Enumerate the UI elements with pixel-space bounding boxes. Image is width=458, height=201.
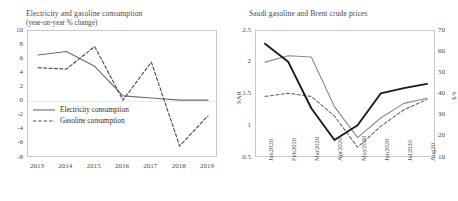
- x-tick-label: 2018: [169, 162, 189, 170]
- figure-root: Electricity and gasoline consumption (ye…: [0, 0, 458, 201]
- axis-label-sar: SAR: [235, 91, 242, 104]
- y-tick-label: 4: [3, 68, 23, 76]
- y-tick-label-right: 60: [438, 47, 458, 55]
- y-tick-label-right: 10: [438, 153, 458, 161]
- x-tick-label: 2016: [112, 162, 132, 170]
- x-tick-label: 2013: [27, 162, 47, 170]
- y-tick-label-right: 70: [438, 26, 458, 34]
- x-tick-label: May2020: [360, 136, 367, 161]
- x-tick-label: Jun2020: [383, 139, 390, 161]
- legend-item[interactable]: Gasoline consumption: [33, 115, 129, 126]
- y-tick-label-left: 2: [231, 57, 251, 65]
- y-tick-label-right: 50: [438, 68, 458, 76]
- series-line: [265, 56, 427, 138]
- y-tick-label-left: 1: [231, 121, 251, 129]
- y-tick-label: -2: [3, 110, 23, 118]
- y-tick-label: 6: [3, 54, 23, 62]
- y-tick-label-right: 30: [438, 110, 458, 118]
- legend-line-swatch: [33, 117, 55, 125]
- x-tick-label: 2019: [197, 162, 217, 170]
- series-layer-left: [28, 31, 218, 158]
- x-tick-label: 2015: [84, 162, 104, 170]
- chart-panel-left: Electricity and gasoline consumption (ye…: [0, 0, 229, 201]
- chart-title-left: Electricity and gasoline consumption: [26, 9, 142, 18]
- axis-label-usd-per-barrel: $/b: [450, 92, 457, 100]
- series-line: [38, 51, 208, 100]
- chart-panel-right: Saudi gasoline and Brent crude prices 2.…: [229, 0, 458, 201]
- y-tick-label-right: 20: [438, 131, 458, 139]
- y-tick-label: -8: [3, 153, 23, 161]
- plot-area-right: [255, 30, 435, 157]
- x-tick-label: 2017: [140, 162, 160, 170]
- legend-item-label: Gasoline consumption: [60, 117, 124, 125]
- y-tick-label: 2: [3, 82, 23, 90]
- y-tick-label: -4: [3, 124, 23, 132]
- y-tick-label: 0: [3, 96, 23, 104]
- x-tick-label: Feb2020: [290, 138, 297, 161]
- x-tick-label: Apr2020: [336, 138, 343, 161]
- x-tick-label: Aug20: [429, 143, 436, 161]
- y-tick-label: -6: [3, 138, 23, 146]
- chart-subtitle-left: (year-on-year % change): [26, 19, 97, 27]
- series-layer-right: [256, 31, 436, 158]
- y-tick-label: 10: [3, 26, 23, 34]
- x-tick-label: Jul2020: [406, 140, 413, 161]
- chart-title-right: Saudi gasoline and Brent crude prices: [249, 9, 368, 18]
- x-tick-label: 2014: [55, 162, 75, 170]
- series-line: [265, 44, 427, 140]
- y-tick-label-left: 2.5: [231, 26, 251, 34]
- legend-line-swatch: [33, 106, 55, 114]
- y-tick-label-left: 0.5: [231, 153, 251, 161]
- legend-item-label: Electricity consumption: [60, 106, 129, 114]
- legend-left: Electricity consumptionGasoline consumpt…: [33, 104, 129, 126]
- y-tick-label: 8: [3, 40, 23, 48]
- x-tick-label: Jan2020: [267, 139, 274, 161]
- x-tick-label: Mar2020: [313, 137, 320, 161]
- plot-area-left: [27, 30, 217, 157]
- legend-item[interactable]: Electricity consumption: [33, 104, 129, 115]
